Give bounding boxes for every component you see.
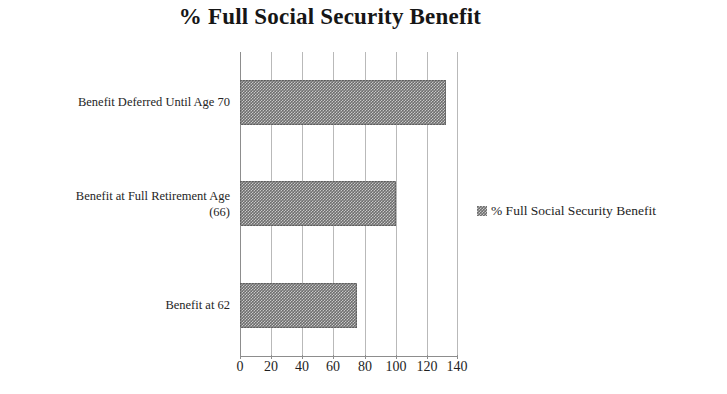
chart-legend: % Full Social Security Benefit xyxy=(477,203,656,219)
category-axis-labels: Benefit Deferred Until Age 70 Benefit at… xyxy=(5,52,240,357)
category-label-benefit-at-62: Benefit at 62 xyxy=(15,297,240,313)
gridline-140 xyxy=(457,52,458,357)
bar-benefit-deferred-until-age-70[interactable] xyxy=(240,80,446,125)
x-tick-label-20: 20 xyxy=(264,359,278,375)
plot-area xyxy=(240,52,458,357)
legend-swatch-icon xyxy=(477,206,487,216)
legend-label: % Full Social Security Benefit xyxy=(491,203,656,219)
x-axis-line xyxy=(240,356,458,357)
x-tick-label-80: 80 xyxy=(358,359,372,375)
chart-title: % Full Social Security Benefit xyxy=(0,4,660,30)
bar-benefit-at-full-retirement-age[interactable] xyxy=(240,181,396,226)
category-label-benefit-deferred-until-age-70: Benefit Deferred Until Age 70 xyxy=(15,94,240,110)
bar-benefit-at-62[interactable] xyxy=(240,283,357,328)
x-tick-label-0: 0 xyxy=(237,359,244,375)
x-tick-label-100: 100 xyxy=(386,359,407,375)
x-tick-label-140: 140 xyxy=(447,359,468,375)
x-tick-label-120: 120 xyxy=(417,359,438,375)
category-label-benefit-at-full-retirement-age: Benefit at Full Retirement Age (66) xyxy=(15,188,240,220)
category-label-line2: (66) xyxy=(15,204,230,220)
category-label-line1: Benefit at Full Retirement Age xyxy=(76,189,230,203)
x-axis-tick-labels: 0 20 40 60 80 100 120 140 xyxy=(240,359,458,379)
x-tick-label-40: 40 xyxy=(295,359,309,375)
x-tick-label-60: 60 xyxy=(326,359,340,375)
bar-chart: % Full Social Security Benefit Benefit D… xyxy=(0,0,727,394)
